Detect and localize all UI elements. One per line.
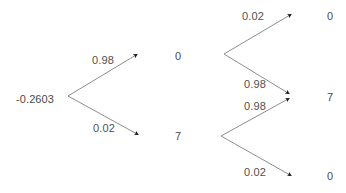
edge-label-down-mid-probability: 0.98 [244,101,266,112]
edge-label-root-up-probability: 0.98 [92,55,114,66]
root-node-label: -0.2603 [16,94,54,105]
edge-label-root-down-probability: 0.02 [93,123,115,134]
leaf-label-top: 0 [327,11,333,22]
probability-tree-diagram: -0.2603 0.98 0.02 0 7 0.02 0.98 0.98 0.0… [0,0,346,193]
leaf-label-bottom: 0 [327,171,333,182]
node-label-level1-down: 7 [175,131,181,142]
node-label-level1-up: 0 [175,51,181,62]
leaf-label-middle: 7 [327,92,333,103]
edge-label-down-bot-probability: 0.02 [244,167,266,178]
edge-label-up-top-probability: 0.02 [242,11,264,22]
edge-label-up-mid-probability: 0.98 [244,79,266,90]
